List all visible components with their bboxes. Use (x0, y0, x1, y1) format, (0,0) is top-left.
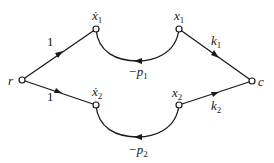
label-x2dot: ẋ2 (91, 84, 102, 101)
gain-loop-1: −p1 (128, 64, 148, 81)
node-c (249, 78, 255, 84)
node-x1 (176, 26, 182, 32)
label-r: r (8, 73, 14, 88)
edge-loop-2 (96, 105, 179, 137)
gain-r-x2dot: 1 (47, 89, 54, 104)
edge-loop-1 (96, 29, 179, 61)
gain-r-x1dot: 1 (47, 34, 54, 49)
label-x1: x1 (173, 8, 184, 25)
arrow-loop-2 (134, 134, 142, 140)
gain-loop-2: −p2 (128, 142, 148, 159)
node-r (19, 77, 25, 83)
gain-k1: k1 (211, 33, 221, 50)
node-x1dot (93, 26, 99, 32)
arrow-x2-to-c (211, 92, 219, 97)
label-c: c (258, 74, 264, 89)
node-x2 (176, 102, 182, 108)
signal-flow-graph: r c ẋ1 x1 ẋ2 x2 1 1 −p1 −p2 k1 k2 (0, 0, 274, 163)
node-x2dot (93, 102, 99, 108)
label-x1dot: ẋ1 (91, 8, 102, 25)
arrow-x1-to-c (211, 50, 219, 58)
label-x2: x2 (171, 85, 182, 102)
gain-k2: k2 (211, 98, 221, 115)
arrow-r-to-x2dot (54, 88, 62, 93)
